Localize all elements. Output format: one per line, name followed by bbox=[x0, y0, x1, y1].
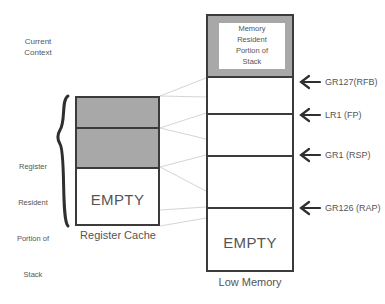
pointer-arrow-gr126 bbox=[301, 202, 320, 214]
bracket-label-line-1: Register bbox=[8, 161, 58, 173]
connector-line-fp-lower bbox=[160, 128, 206, 139]
connector-line-fp bbox=[160, 113, 206, 128]
pointer-label-gr1-rsp: GR1 (RSP) bbox=[325, 150, 371, 160]
pointer-label-gr127-rfb: GR127(RFB) bbox=[325, 77, 378, 87]
stack-diagram: Memory Resident Portion of Stack EMPTY L… bbox=[0, 0, 385, 304]
memory-divider-lr1 bbox=[208, 113, 292, 115]
low-memory-caption: Low Memory bbox=[206, 276, 294, 289]
register-cache-empty-label: EMPTY bbox=[77, 191, 158, 208]
pointer-label-gr126-rap: GR126 (RAP) bbox=[325, 203, 381, 213]
connector-line-rfb bbox=[160, 96, 206, 97]
register-cache-upper-shaded-band bbox=[77, 98, 158, 129]
low-memory-column: Memory Resident Portion of Stack EMPTY bbox=[206, 14, 294, 272]
pointer-arrows bbox=[301, 76, 320, 214]
connector-line-bottom bbox=[160, 218, 206, 226]
memory-empty-label: EMPTY bbox=[208, 234, 292, 251]
memory-resident-line-1: Memory bbox=[238, 24, 265, 35]
connector-line-rsp-lower bbox=[160, 167, 206, 191]
register-resident-brace bbox=[58, 96, 68, 226]
connector-line-rfb-top bbox=[160, 78, 206, 96]
register-cache-caption: Register Cache bbox=[70, 229, 166, 242]
register-cache-current-context-band bbox=[77, 129, 158, 169]
pointer-label-lr1-fp: LR1 (FP) bbox=[325, 110, 362, 120]
pointer-arrow-lr1 bbox=[301, 109, 320, 121]
bracket-label-line-3: Portion of bbox=[8, 233, 58, 245]
current-context-line-1: Current bbox=[25, 37, 52, 48]
current-context-line-2: Context bbox=[24, 48, 52, 59]
register-cache-box: EMPTY bbox=[75, 96, 160, 226]
memory-resident-line-2: Resident bbox=[237, 35, 267, 46]
connector-lines bbox=[160, 78, 206, 226]
bracket-label-line-4: Stack bbox=[8, 269, 58, 281]
memory-divider-gr126 bbox=[208, 207, 292, 209]
memory-resident-label-box: Memory Resident Portion of Stack bbox=[219, 23, 285, 69]
pointer-arrow-gr1 bbox=[301, 149, 320, 161]
connector-line-rsp bbox=[160, 155, 206, 167]
register-resident-portion-label: Register Resident Portion of Stack bbox=[8, 137, 58, 304]
memory-divider-gr1 bbox=[208, 155, 292, 157]
bracket-label-line-2: Resident bbox=[8, 197, 58, 209]
memory-resident-line-3: Portion of bbox=[236, 46, 268, 57]
current-context-label-box: Current Context bbox=[13, 34, 63, 62]
connector-line-rap bbox=[160, 207, 206, 210]
pointer-arrow-gr127 bbox=[301, 76, 320, 88]
memory-resident-line-4: Stack bbox=[243, 57, 262, 68]
